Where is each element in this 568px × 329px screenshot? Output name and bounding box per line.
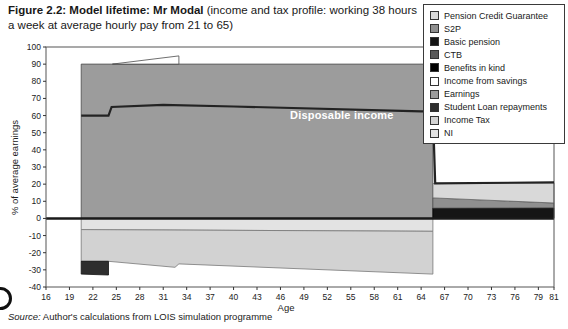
legend-swatch-icon <box>430 50 439 59</box>
legend-item-pension-credit-guarantee: Pension Credit Guarantee <box>430 9 562 22</box>
legend-item-label: Benefits in kind <box>444 63 505 73</box>
x-tick-label: 79 <box>534 292 544 302</box>
x-tick-label: 58 <box>370 292 380 302</box>
legend-swatch-icon <box>430 63 439 72</box>
y-axis-label: % of average earnings <box>9 113 20 223</box>
x-tick-label: 22 <box>88 292 98 302</box>
y-tick-label: -40 <box>29 282 42 292</box>
x-tick-label: 73 <box>487 292 497 302</box>
legend-item-label: Pension Credit Guarantee <box>444 11 548 21</box>
area-student-loan-repayments <box>81 261 108 275</box>
figure-page: Figure 2.2: Model lifetime: Mr Modal (in… <box>0 0 568 329</box>
area-income-from-savings <box>112 56 178 64</box>
legend-swatch-icon <box>430 90 439 99</box>
y-tick-label: 20 <box>32 179 42 189</box>
y-tick-label: 10 <box>32 196 42 206</box>
x-tick-label: 61 <box>393 292 403 302</box>
x-tick-label: 76 <box>510 292 520 302</box>
legend-item-income-from-savings: Income from savings <box>430 74 562 87</box>
x-tick-label: 40 <box>229 292 239 302</box>
x-tick-label: 81 <box>549 292 559 302</box>
area-income-tax <box>81 230 433 275</box>
legend-item-label: Earnings <box>444 89 480 99</box>
y-tick-label: 40 <box>32 145 42 155</box>
y-tick-label: 30 <box>32 162 42 172</box>
area-basic-pension <box>433 208 554 219</box>
area-earnings <box>81 64 433 218</box>
x-tick-label: 19 <box>65 292 75 302</box>
figure-title-bold: Figure 2.2: Model lifetime: Mr Modal <box>8 4 204 16</box>
source-prefix: Source: <box>8 311 41 322</box>
y-tick-label: 80 <box>32 76 42 86</box>
source-text: Author's calculations from LOIS simulati… <box>41 311 273 322</box>
x-tick-label: 46 <box>276 292 286 302</box>
x-tick-label: 43 <box>252 292 262 302</box>
y-tick-label: 70 <box>32 93 42 103</box>
legend-swatch-icon <box>430 77 439 86</box>
legend-swatch-icon <box>430 37 439 46</box>
x-tick-label: 64 <box>416 292 426 302</box>
legend-item-label: Basic pension <box>444 37 500 47</box>
legend-item-ctb: CTB <box>430 48 562 61</box>
disposable-income-annotation: Disposable income <box>290 109 394 121</box>
y-tick-label: 0 <box>36 213 41 223</box>
legend-item-ni: NI <box>430 127 562 140</box>
chart-legend: Pension Credit GuaranteeS2PBasic pension… <box>423 4 565 144</box>
legend-item-income-tax: Income Tax <box>430 114 562 127</box>
y-tick-label: -10 <box>29 231 42 241</box>
x-tick-label: 67 <box>440 292 450 302</box>
x-tick-label: 28 <box>135 292 145 302</box>
x-tick-label: 37 <box>205 292 215 302</box>
x-tick-label: 25 <box>112 292 122 302</box>
legend-item-label: S2P <box>444 24 461 34</box>
legend-swatch-icon <box>430 129 439 138</box>
legend-item-label: CTB <box>444 50 462 60</box>
figure-title: Figure 2.2: Model lifetime: Mr Modal (in… <box>8 3 424 33</box>
area-ni <box>81 218 433 231</box>
legend-item-label: Student Loan repayments <box>444 102 547 112</box>
legend-item-label: Income Tax <box>444 115 490 125</box>
x-tick-label: 49 <box>299 292 309 302</box>
x-tick-label: 70 <box>463 292 473 302</box>
source-note: Source: Author's calculations from LOIS … <box>8 311 272 322</box>
legend-item-benefits-in-kind: Benefits in kind <box>430 61 562 74</box>
legend-swatch-icon <box>430 11 439 20</box>
x-tick-label: 55 <box>346 292 356 302</box>
y-tick-label: 50 <box>32 128 42 138</box>
legend-item-s2p: S2P <box>430 22 562 35</box>
legend-item-earnings: Earnings <box>430 88 562 101</box>
x-tick-label: 34 <box>182 292 192 302</box>
y-tick-label: 60 <box>32 111 42 121</box>
x-tick-label: 52 <box>323 292 333 302</box>
y-tick-label: -30 <box>29 265 42 275</box>
legend-item-basic-pension: Basic pension <box>430 35 562 48</box>
y-tick-label: 90 <box>32 59 42 69</box>
legend-item-student-loan-repayments: Student Loan repayments <box>430 101 562 114</box>
x-tick-label: 31 <box>158 292 168 302</box>
legend-item-label: NI <box>444 128 453 138</box>
legend-swatch-icon <box>430 103 439 112</box>
legend-item-label: Income from savings <box>444 76 527 86</box>
y-tick-label: -20 <box>29 248 42 258</box>
y-tick-label: 100 <box>27 42 41 52</box>
legend-swatch-icon <box>430 24 439 33</box>
x-tick-label: 16 <box>41 292 51 302</box>
legend-swatch-icon <box>430 116 439 125</box>
